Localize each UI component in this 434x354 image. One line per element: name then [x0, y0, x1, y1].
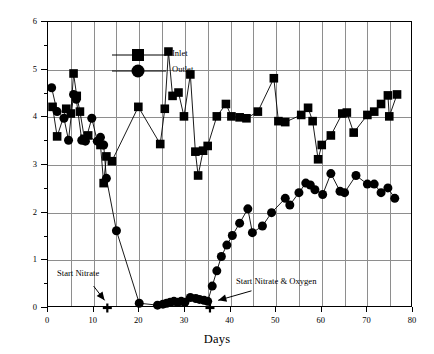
y-axis-tick [41, 21, 47, 22]
x-axis-tick-label: 10 [78, 315, 108, 325]
y-axis-tick [41, 164, 47, 165]
x-axis-tick-label: 60 [306, 315, 336, 325]
x-axis-tick [412, 307, 413, 312]
x-axis-tick-label: 20 [123, 315, 153, 325]
x-axis-tick-label: 40 [215, 315, 245, 325]
y-axis-tick [41, 307, 47, 308]
x-axis-tick-label: 30 [169, 315, 199, 325]
arrow-start-nitrate [94, 286, 105, 300]
x-axis-tick [366, 307, 367, 312]
chart-figure: Concentration (mg/L) Inlet Outlet [0, 0, 434, 354]
legend-circle-icon [110, 63, 170, 79]
y-axis-minor-tick [44, 93, 48, 94]
y-axis-minor-tick [44, 236, 48, 237]
y-axis-tick-label: 0 [17, 302, 37, 312]
y-axis-tick-label: 2 [17, 207, 37, 217]
legend-square-icon [110, 47, 170, 63]
legend-label-outlet: Outlet [172, 64, 193, 74]
y-axis-minor-tick [44, 188, 48, 189]
x-axis-tick [321, 307, 322, 312]
plot-area: Inlet Outlet [47, 21, 412, 307]
legend-item-inlet: Inlet [110, 47, 208, 63]
x-axis-tick [230, 307, 231, 312]
x-axis-tick-label: 0 [32, 315, 62, 325]
marker-plus-start-nitrate-oxygen [205, 304, 214, 313]
y-axis-tick-label: 6 [17, 16, 37, 26]
y-axis-minor-tick [44, 283, 48, 284]
annotation-layer [48, 22, 413, 308]
x-axis-tick [47, 307, 48, 312]
y-axis-tick [41, 69, 47, 70]
y-axis-tick-label: 1 [17, 254, 37, 264]
annotation-start-nitrate: Start Nitrate [57, 268, 99, 278]
y-axis-tick-label: 3 [17, 159, 37, 169]
y-axis-tick [41, 116, 47, 117]
x-axis-tick-label: 70 [351, 315, 381, 325]
y-axis-minor-tick [44, 45, 48, 46]
x-axis-tick-label: 50 [260, 315, 290, 325]
x-axis-tick [184, 307, 185, 312]
x-axis-tick [138, 307, 139, 312]
x-axis-tick-label: 80 [397, 315, 427, 325]
x-axis-tick [275, 307, 276, 312]
y-axis-tick-label: 5 [17, 64, 37, 74]
y-axis-minor-tick [44, 140, 48, 141]
chart-legend: Inlet Outlet [110, 47, 208, 82]
arrow-start-nitrate-oxygen [218, 291, 251, 302]
y-axis-tick [41, 259, 47, 260]
x-axis-title: Days [0, 332, 434, 347]
legend-item-outlet: Outlet [110, 63, 208, 79]
legend-label-inlet: Inlet [172, 48, 188, 58]
y-axis-tick-label: 4 [17, 111, 37, 121]
marker-plus-start-nitrate [103, 304, 112, 313]
y-axis-tick [41, 212, 47, 213]
annotation-start-nitrate-oxygen: Start Nitrate & Oxygen [236, 276, 316, 286]
x-axis-tick [93, 307, 94, 312]
